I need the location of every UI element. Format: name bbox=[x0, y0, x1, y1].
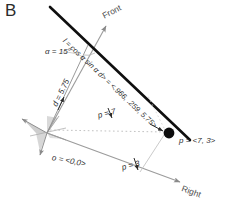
diagram-canvas bbox=[0, 0, 232, 202]
angle-label: α = 15° bbox=[45, 48, 71, 56]
origin-axis-star bbox=[22, 116, 66, 155]
front-axis-arrow bbox=[47, 26, 106, 133]
point-p-label: p = <7, 3> bbox=[179, 137, 215, 145]
point-p-dot bbox=[164, 128, 175, 139]
ray-line bbox=[50, 7, 190, 140]
p-y-leg bbox=[140, 132, 166, 172]
p-guide-dotted bbox=[50, 130, 166, 132]
